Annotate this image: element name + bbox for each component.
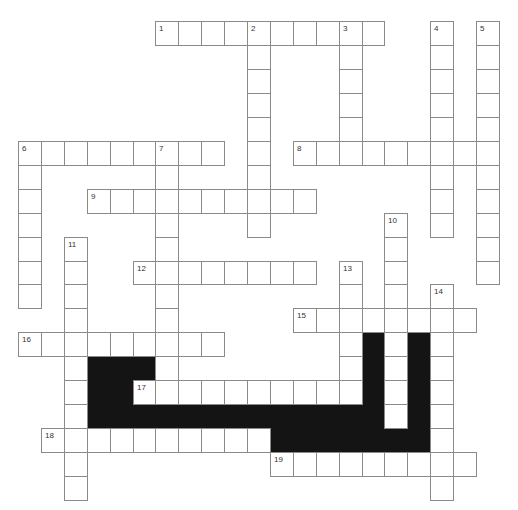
grid-cell[interactable]: [201, 332, 225, 357]
grid-cell[interactable]: [430, 165, 454, 190]
grid-cell[interactable]: [476, 213, 500, 238]
grid-cell[interactable]: 14: [430, 284, 454, 309]
grid-cell[interactable]: [41, 332, 65, 357]
grid-cell[interactable]: [224, 189, 248, 214]
grid-cell[interactable]: 2: [247, 21, 271, 46]
grid-cell[interactable]: [430, 93, 454, 118]
grid-cell[interactable]: [178, 21, 202, 46]
grid-cell[interactable]: [270, 380, 294, 405]
grid-cell[interactable]: [247, 380, 271, 405]
grid-cell[interactable]: [224, 380, 248, 405]
grid-cell[interactable]: [407, 308, 431, 333]
grid-cell[interactable]: [64, 428, 88, 453]
grid-cell[interactable]: [453, 141, 477, 166]
grid-cell[interactable]: 10: [384, 213, 408, 238]
grid-cell[interactable]: 13: [339, 261, 363, 285]
grid-cell[interactable]: [430, 189, 454, 214]
grid-cell[interactable]: [64, 284, 88, 309]
grid-cell[interactable]: [18, 284, 42, 309]
grid-cell[interactable]: [362, 21, 385, 46]
grid-cell[interactable]: [64, 356, 88, 381]
grid-cell[interactable]: 3: [339, 21, 363, 46]
grid-cell[interactable]: [247, 189, 271, 214]
grid-cell[interactable]: [407, 141, 431, 166]
grid-cell[interactable]: [133, 189, 156, 214]
grid-cell[interactable]: [430, 428, 454, 453]
grid-cell[interactable]: 9: [87, 189, 111, 214]
grid-cell[interactable]: [18, 237, 42, 262]
grid-cell[interactable]: [133, 332, 156, 357]
grid-cell[interactable]: 1: [155, 21, 179, 46]
grid-cell[interactable]: [430, 213, 454, 238]
grid-cell[interactable]: [247, 93, 271, 118]
grid-cell[interactable]: [316, 308, 340, 333]
grid-cell[interactable]: 19: [270, 452, 294, 477]
grid-cell[interactable]: [476, 93, 500, 118]
grid-cell[interactable]: [18, 261, 42, 285]
grid-cell[interactable]: [64, 261, 88, 285]
grid-cell[interactable]: [453, 308, 477, 333]
grid-cell[interactable]: [178, 141, 202, 166]
grid-cell[interactable]: [247, 69, 271, 94]
grid-cell[interactable]: [87, 332, 111, 357]
grid-cell[interactable]: [201, 380, 225, 405]
grid-cell[interactable]: [178, 428, 202, 453]
grid-cell[interactable]: [224, 261, 248, 285]
grid-cell[interactable]: [293, 452, 317, 477]
grid-cell[interactable]: [384, 141, 408, 166]
grid-cell[interactable]: [384, 261, 408, 285]
grid-cell[interactable]: 8: [293, 141, 317, 166]
grid-cell[interactable]: [384, 237, 408, 262]
grid-cell[interactable]: [476, 141, 500, 166]
grid-cell[interactable]: [110, 332, 134, 357]
grid-cell[interactable]: [247, 117, 271, 142]
grid-cell[interactable]: [453, 452, 477, 477]
grid-cell[interactable]: [87, 141, 111, 166]
grid-cell[interactable]: 11: [64, 237, 88, 262]
grid-cell[interactable]: [64, 308, 88, 333]
grid-cell[interactable]: [430, 476, 454, 501]
grid-cell[interactable]: [201, 189, 225, 214]
grid-cell[interactable]: [476, 165, 500, 190]
grid-cell[interactable]: 5: [476, 21, 500, 46]
grid-cell[interactable]: [110, 189, 134, 214]
grid-cell[interactable]: [247, 141, 271, 166]
grid-cell[interactable]: [178, 332, 202, 357]
grid-cell[interactable]: [339, 284, 363, 309]
grid-cell[interactable]: [87, 428, 111, 453]
grid-cell[interactable]: [384, 452, 408, 477]
grid-cell[interactable]: [293, 189, 317, 214]
grid-cell[interactable]: [476, 189, 500, 214]
grid-cell[interactable]: [155, 428, 179, 453]
grid-cell[interactable]: [110, 141, 134, 166]
grid-cell[interactable]: [384, 404, 408, 429]
grid-cell[interactable]: [201, 141, 225, 166]
grid-cell[interactable]: [339, 45, 363, 70]
grid-cell[interactable]: [293, 261, 317, 285]
grid-cell[interactable]: [384, 308, 408, 333]
grid-cell[interactable]: [430, 69, 454, 94]
grid-cell[interactable]: [339, 117, 363, 142]
grid-cell[interactable]: [339, 141, 363, 166]
grid-cell[interactable]: [293, 21, 317, 46]
grid-cell[interactable]: [155, 261, 179, 285]
grid-cell[interactable]: [430, 308, 454, 333]
grid-cell[interactable]: [384, 380, 408, 405]
grid-cell[interactable]: [430, 332, 454, 357]
grid-cell[interactable]: [155, 308, 179, 333]
grid-cell[interactable]: 18: [41, 428, 65, 453]
grid-cell[interactable]: [270, 21, 294, 46]
grid-cell[interactable]: 6: [18, 141, 42, 166]
grid-cell[interactable]: [316, 380, 340, 405]
grid-cell[interactable]: [316, 21, 340, 46]
grid-cell[interactable]: [247, 165, 271, 190]
grid-cell[interactable]: [224, 428, 248, 453]
grid-cell[interactable]: [430, 404, 454, 429]
grid-cell[interactable]: [476, 261, 500, 285]
grid-cell[interactable]: [178, 261, 202, 285]
grid-cell[interactable]: [430, 117, 454, 142]
grid-cell[interactable]: [339, 93, 363, 118]
grid-cell[interactable]: [430, 141, 454, 166]
grid-cell[interactable]: [64, 476, 88, 501]
grid-cell[interactable]: 4: [430, 21, 454, 46]
